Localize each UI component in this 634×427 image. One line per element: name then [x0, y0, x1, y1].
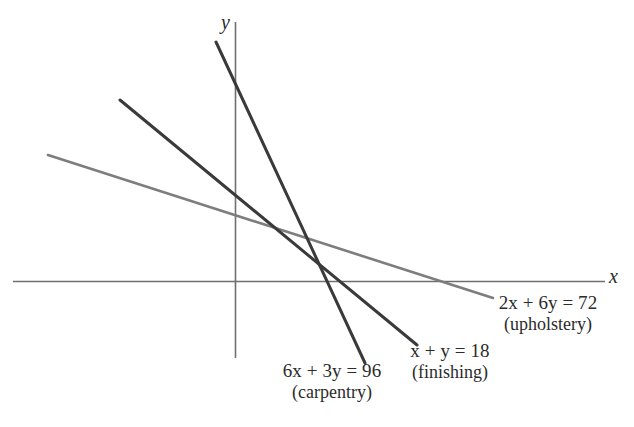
annotation-upholstery: 2x + 6y = 72 (upholstery): [468, 293, 628, 332]
line-carpentry: [216, 42, 365, 363]
equation-upholstery: 2x + 6y = 72: [468, 293, 628, 313]
line-upholstery: [48, 155, 493, 298]
label-upholstery: (upholstery): [468, 315, 628, 334]
equation-finishing: x + y = 18: [385, 341, 515, 361]
line-finishing: [120, 100, 417, 345]
y-axis-label: y: [221, 12, 230, 33]
equation-carpentry: 6x + 3y = 96: [252, 361, 412, 381]
annotation-carpentry: 6x + 3y = 96 (carpentry): [252, 361, 412, 400]
linear-programming-figure: y x 2x + 6y = 72 (upholstery) x + y = 18…: [0, 0, 634, 427]
label-carpentry: (carpentry): [252, 383, 412, 402]
x-axis-label: x: [609, 266, 618, 287]
